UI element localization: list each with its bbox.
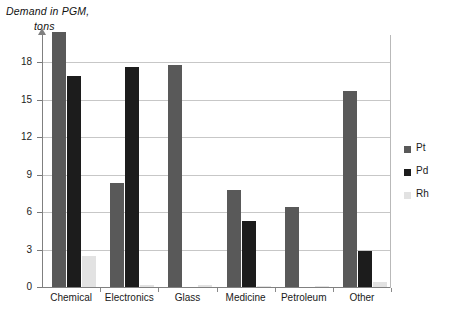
bar-rh-glass — [198, 285, 212, 288]
bar-group — [110, 35, 154, 287]
bar-pt-medicine — [227, 190, 241, 288]
bar-pt-petroleum — [285, 207, 299, 287]
bar-group — [227, 35, 271, 287]
legend-label: Pt — [416, 142, 425, 153]
y-axis-tick-label: 12 — [6, 132, 32, 142]
y-axis-tick-label: 18 — [6, 57, 32, 67]
bar-pt-chemical — [52, 32, 66, 287]
bar-pt-other — [343, 91, 357, 287]
x-axis-label-glass: Glass — [158, 292, 216, 303]
x-axis-label-petroleum: Petroleum — [275, 292, 333, 303]
bar-pd-electronics — [125, 67, 139, 287]
legend-swatch-icon — [404, 192, 411, 199]
legend-item-pt[interactable]: Pt — [404, 143, 454, 166]
x-axis-label-chemical: Chemical — [42, 292, 100, 303]
bar-rh-chemical — [82, 256, 96, 287]
bar-group — [343, 35, 387, 287]
plot-area — [42, 35, 391, 288]
chart-title-line-1: Demand in PGM, — [6, 5, 89, 17]
legend: PtPdRh — [404, 143, 454, 212]
plot-right-border — [390, 35, 391, 288]
bar-pt-glass — [168, 65, 182, 288]
y-axis-tick-label: 6 — [6, 207, 32, 217]
bar-pd-medicine — [242, 221, 256, 287]
y-axis-tick-label: 15 — [6, 95, 32, 105]
bar-pd-other — [358, 251, 372, 287]
y-axis-arrow-icon — [38, 28, 46, 35]
y-axis-tick-label: 3 — [6, 245, 32, 255]
x-axis-tick — [391, 288, 392, 292]
y-axis-tick-label: 0 — [6, 282, 32, 292]
bar-group — [285, 35, 329, 287]
bar-pd-chemical — [67, 76, 81, 287]
bar-group — [168, 35, 212, 287]
legend-swatch-icon — [404, 169, 411, 176]
legend-item-pd[interactable]: Pd — [404, 166, 454, 189]
x-axis-label-other: Other — [333, 292, 391, 303]
legend-item-rh[interactable]: Rh — [404, 189, 454, 212]
bar-chart: Demand in PGM, tons 0369121518 ChemicalE… — [0, 0, 458, 323]
legend-swatch-icon — [404, 146, 411, 153]
bar-pt-electronics — [110, 183, 124, 287]
bar-rh-electronics — [140, 285, 154, 288]
x-axis-label-medicine: Medicine — [217, 292, 275, 303]
x-axis-label-electronics: Electronics — [100, 292, 158, 303]
legend-label: Rh — [416, 188, 429, 199]
bar-group — [52, 35, 96, 287]
bar-rh-medicine — [257, 286, 271, 287]
bar-rh-petroleum — [315, 286, 329, 287]
legend-label: Pd — [416, 165, 428, 176]
bar-rh-other — [373, 282, 387, 287]
y-axis-tick-label: 9 — [6, 170, 32, 180]
